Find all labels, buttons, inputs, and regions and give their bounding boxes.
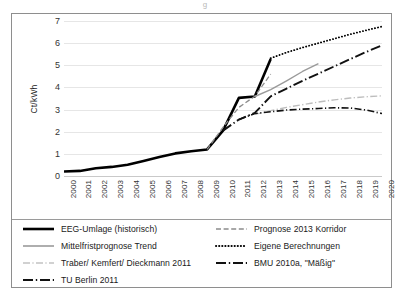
x-tick-2017: 2017 — [339, 180, 348, 210]
x-tick-2020: 2020 — [387, 180, 396, 210]
legend-column-left: EEG-Umlage (historisch)Mittelfristprogno… — [22, 220, 212, 288]
y-tick-0: 0 — [40, 172, 60, 181]
legend-item[interactable]: EEG-Umlage (historisch) — [22, 220, 212, 237]
legend-line-swatch-icon — [215, 258, 248, 268]
x-tick-2011: 2011 — [243, 180, 252, 210]
legend-item[interactable]: BMU 2010a, "Mäßig" — [215, 254, 391, 271]
x-tick-2012: 2012 — [259, 180, 268, 210]
x-tick-2009: 2009 — [212, 180, 221, 210]
x-tick-2008: 2008 — [196, 180, 205, 210]
y-tick-7: 7 — [40, 17, 60, 26]
series-line — [271, 27, 382, 59]
chart-series-canvas — [64, 21, 382, 176]
x-tick-2001: 2001 — [84, 180, 93, 210]
series-line — [255, 64, 319, 97]
legend-item[interactable]: Mittelfristprognose Trend — [22, 237, 212, 254]
gridline-0 — [64, 176, 382, 177]
y-tick-5: 5 — [40, 61, 60, 70]
legend-line-swatch-icon — [22, 241, 55, 251]
y-axis-tick-labels: 76543210 — [40, 14, 60, 176]
legend-item-label: EEG-Umlage (historisch) — [61, 224, 157, 234]
y-tick-4: 4 — [40, 83, 60, 92]
legend-line-swatch-icon — [22, 275, 55, 285]
legend-line-swatch-icon — [22, 258, 55, 268]
series-line — [223, 45, 382, 130]
x-tick-2002: 2002 — [100, 180, 109, 210]
legend-item-label: Mittelfristprognose Trend — [61, 241, 157, 251]
series-line — [64, 59, 271, 171]
legend-line-swatch-icon — [22, 224, 55, 234]
chart-figure-frame: Ct/kWh 76543210 200020012002200320042005… — [11, 13, 392, 288]
x-tick-2010: 2010 — [228, 180, 237, 210]
x-tick-2006: 2006 — [164, 180, 173, 210]
y-tick-3: 3 — [40, 105, 60, 114]
legend-item-label: TU Berlin 2011 — [61, 275, 118, 285]
x-tick-2018: 2018 — [355, 180, 364, 210]
x-tick-2005: 2005 — [148, 180, 157, 210]
y-tick-1: 1 — [40, 149, 60, 158]
x-tick-2013: 2013 — [275, 180, 284, 210]
x-axis-tick-labels: 2000200120022003200420052006200720082009… — [64, 180, 382, 210]
series-line — [239, 108, 382, 120]
legend-item[interactable]: Prognose 2013 Korridor — [215, 220, 391, 237]
x-tick-2000: 2000 — [69, 180, 78, 210]
x-tick-2016: 2016 — [323, 180, 332, 210]
legend-item-label: Eigene Berechnungen — [254, 241, 340, 251]
x-tick-2007: 2007 — [180, 180, 189, 210]
plot-region: Ct/kWh 76543210 200020012002200320042005… — [12, 14, 391, 207]
x-tick-2004: 2004 — [132, 180, 141, 210]
legend-column-right: Prognose 2013 KorridorEigene Berechnunge… — [215, 220, 391, 271]
legend-item[interactable]: Traber/ Kemfert/ Dieckmann 2011 — [22, 254, 212, 271]
legend-item[interactable]: Eigene Berechnungen — [215, 237, 391, 254]
y-tick-2: 2 — [40, 127, 60, 136]
y-tick-6: 6 — [40, 39, 60, 48]
x-tick-2015: 2015 — [307, 180, 316, 210]
x-tick-2019: 2019 — [371, 180, 380, 210]
legend-line-swatch-icon — [215, 241, 248, 251]
page-artifact-text: g — [175, 0, 235, 9]
plot-area — [64, 21, 382, 176]
chart-legend: EEG-Umlage (historisch)Mittelfristprogno… — [12, 220, 391, 287]
legend-line-swatch-icon — [215, 224, 248, 234]
legend-item-label: Traber/ Kemfert/ Dieckmann 2011 — [61, 258, 191, 268]
x-tick-2014: 2014 — [291, 180, 300, 210]
legend-item-label: BMU 2010a, "Mäßig" — [254, 258, 335, 268]
legend-item[interactable]: TU Berlin 2011 — [22, 271, 212, 288]
legend-item-label: Prognose 2013 Korridor — [254, 224, 346, 234]
x-tick-2003: 2003 — [116, 180, 125, 210]
